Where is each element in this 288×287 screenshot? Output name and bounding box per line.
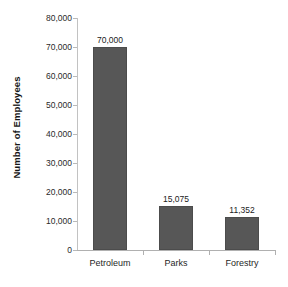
bar-value-label: 15,075	[163, 195, 189, 204]
y-axis-tick-label: 70,000	[22, 43, 72, 52]
bar-group: 15,075	[159, 18, 193, 250]
x-axis-separator-tick	[143, 250, 144, 255]
y-axis-tick-label: 50,000	[22, 101, 72, 110]
y-axis-tick-label: 10,000	[22, 217, 72, 226]
bar-value-label: 11,352	[229, 206, 254, 215]
bar[interactable]	[93, 47, 127, 250]
y-axis-title-text: Number of Employees	[11, 76, 22, 178]
y-axis-tick-label: 30,000	[22, 159, 72, 168]
bar-chart: Number of Employees 010,00020,00030,0004…	[0, 0, 288, 287]
y-axis-tick-labels: 010,00020,00030,00040,00050,00060,00070,…	[22, 12, 72, 250]
x-axis-category-label: Forestry	[225, 258, 258, 269]
y-axis-tick-label: 60,000	[22, 72, 72, 81]
x-axis-line	[77, 250, 276, 251]
x-axis-category-label: Parks	[164, 258, 187, 269]
y-axis-tick-label: 0	[22, 246, 72, 255]
x-axis-separator-tick	[275, 250, 276, 255]
bar-value-label: 70,000	[97, 36, 123, 45]
bar[interactable]	[159, 206, 193, 250]
bar-group: 11,352	[225, 18, 259, 250]
y-axis-tick-label: 80,000	[22, 14, 72, 23]
x-axis-separator-tick	[209, 250, 210, 255]
plot-area: 70,00015,07511,352	[77, 18, 275, 250]
y-axis-tick-label: 40,000	[22, 130, 72, 139]
bar-group: 70,000	[93, 18, 127, 250]
x-axis-category-label: Petroleum	[89, 258, 130, 269]
y-axis-tick-label: 20,000	[22, 188, 72, 197]
bar[interactable]	[225, 217, 259, 250]
